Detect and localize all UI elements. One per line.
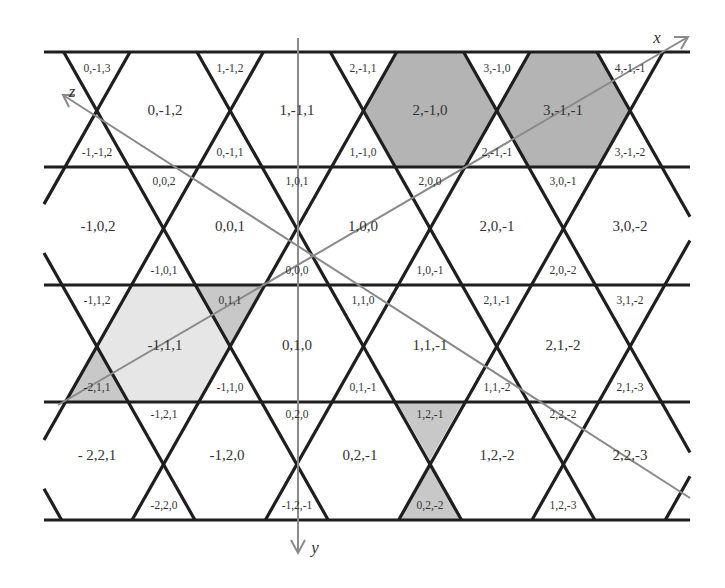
triangle-label: -2,1,1 bbox=[84, 381, 111, 393]
triangle-label: 0,-1,1 bbox=[217, 146, 244, 158]
triangle-label: 0,0,2 bbox=[153, 175, 176, 187]
triangle-label: 2,0,0 bbox=[419, 175, 442, 187]
triangle-label: 0,0,0 bbox=[286, 264, 309, 276]
hexagon-label: 2,0,-1 bbox=[480, 218, 515, 235]
triangle-label: 1,2,-1 bbox=[417, 408, 444, 420]
hexagon-label: 1,-1,1 bbox=[280, 102, 315, 119]
triangle-label: 1,1,-2 bbox=[484, 381, 511, 393]
hexagon-label: 2,-1,0 bbox=[413, 102, 448, 119]
triangle-label: 0,2,0 bbox=[286, 408, 309, 420]
hexagon-label: 0,-1,2 bbox=[148, 102, 183, 119]
triangle-label: 4,-1,-1 bbox=[615, 62, 646, 74]
triangle-label: 1,2,-3 bbox=[550, 499, 577, 511]
hexagon-label: 0,2,-1 bbox=[343, 447, 378, 464]
hexagon-label: 1,2,-2 bbox=[480, 447, 515, 464]
hexagon-label: -1,0,2 bbox=[81, 218, 116, 235]
y-axis-label: y bbox=[311, 538, 319, 558]
shaded-triangle-0-2-m2 bbox=[397, 460, 463, 520]
hexagon-label: 1,0,0 bbox=[348, 218, 378, 235]
triangle-label: 2,-1,1 bbox=[350, 62, 377, 74]
hexagon-label: 3,-1,-1 bbox=[543, 102, 583, 119]
hexagon-label: - 2,2,1 bbox=[78, 447, 117, 464]
triangle-label: -1,1,2 bbox=[84, 294, 111, 306]
triangle-label: 2,-1,-1 bbox=[482, 146, 513, 158]
triangle-label: 3,1,-2 bbox=[617, 294, 644, 306]
hexagon-label: 0,1,0 bbox=[282, 337, 312, 354]
triangle-label: 1,0,-1 bbox=[417, 264, 444, 276]
triangle-label: -1,0,1 bbox=[151, 264, 178, 276]
triangle-label: 1,0,1 bbox=[286, 175, 309, 187]
hexagon-label: 2,1,-2 bbox=[546, 337, 581, 354]
triangle-label: 0,-1,3 bbox=[84, 62, 111, 74]
triangle-label: 2,0,-2 bbox=[550, 264, 577, 276]
triangle-label: 1,1,0 bbox=[352, 294, 375, 306]
triangle-label: 0,2,-2 bbox=[417, 499, 444, 511]
hexagon-label: 0,0,1 bbox=[215, 218, 245, 235]
triangle-label: 0,1,-1 bbox=[350, 381, 377, 393]
hexagon-label: 2,2,-3 bbox=[613, 447, 648, 464]
triangle-label: 2,1,-3 bbox=[617, 381, 644, 393]
triangle-label: 1,-1,2 bbox=[217, 62, 244, 74]
z-axis-label: z bbox=[69, 82, 76, 102]
hexagon-label: -1,1,1 bbox=[148, 337, 183, 354]
triangle-label: 3,0,-1 bbox=[550, 175, 577, 187]
triangle-label: 3,-1,-2 bbox=[615, 146, 646, 158]
triangle-label: -1,2,-1 bbox=[282, 499, 313, 511]
hexagon-label: -1,2,0 bbox=[210, 447, 245, 464]
hexagon-label: 1,1,-1 bbox=[413, 337, 448, 354]
triangle-label: 2,2,-2 bbox=[550, 408, 577, 420]
triangle-label: 2,1,-1 bbox=[484, 294, 511, 306]
x-axis-label: x bbox=[653, 28, 661, 48]
triangle-label: -1,-1,2 bbox=[82, 146, 113, 158]
triangle-label: 1,-1,0 bbox=[350, 146, 377, 158]
triangle-label: -1,1,0 bbox=[217, 381, 244, 393]
triangle-label: -1,2,1 bbox=[151, 408, 178, 420]
triangle-label: 0,1,1 bbox=[219, 294, 242, 306]
triangle-label: -2,2,0 bbox=[151, 499, 178, 511]
triangle-label: 3,-1,0 bbox=[484, 62, 511, 74]
hexagon-label: 3,0,-2 bbox=[613, 218, 648, 235]
